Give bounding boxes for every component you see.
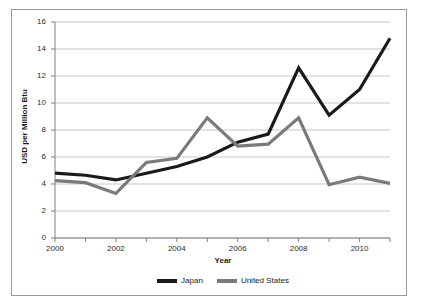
chart-figure: USD per Million Btu Year 0246810121416 2…	[0, 0, 423, 306]
line-chart: USD per Million Btu Year 0246810121416 2…	[0, 0, 423, 306]
y-tick-label: 14	[24, 45, 46, 53]
legend-item-united-states: United States	[217, 277, 289, 285]
y-tick-label: 4	[24, 180, 46, 188]
y-tick-label: 10	[24, 99, 46, 107]
y-tick-label: 6	[24, 153, 46, 161]
x-tick-label: 2010	[340, 245, 380, 253]
series-line-united-states	[55, 118, 390, 194]
series-line-japan	[55, 38, 390, 180]
x-tick-label: 2008	[279, 245, 319, 253]
chart-legend: Japan United States	[55, 277, 391, 285]
data-series	[55, 38, 390, 193]
y-tick-label: 12	[24, 72, 46, 80]
x-tick-label: 2004	[157, 245, 197, 253]
y-tick-label: 16	[24, 18, 46, 26]
y-tick-label: 2	[24, 207, 46, 215]
x-tick-label: 2006	[218, 245, 258, 253]
legend-swatch-united-states	[217, 279, 237, 283]
legend-label-united-states: United States	[241, 277, 289, 285]
legend-swatch-japan	[157, 279, 177, 283]
y-tick-label: 8	[24, 126, 46, 134]
y-tick-label: 0	[24, 234, 46, 242]
legend-item-japan: Japan	[157, 277, 203, 285]
x-tick-label: 2002	[96, 245, 136, 253]
x-tick-label: 2000	[35, 245, 75, 253]
legend-label-japan: Japan	[181, 277, 203, 285]
plot-canvas	[0, 0, 423, 306]
